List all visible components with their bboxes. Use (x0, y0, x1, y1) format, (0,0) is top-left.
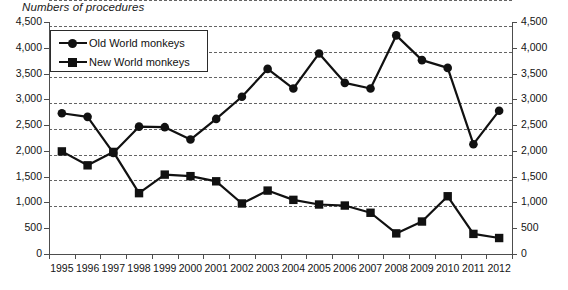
y-axis-label-right: 1,000 (521, 195, 565, 207)
data-point-marker-square (186, 172, 194, 180)
gridline (49, 103, 512, 104)
legend-item-old-world-monkeys[interactable]: Old World monkeys (59, 34, 185, 51)
y-axis-label-left: 2,500 (0, 118, 42, 130)
gridline (49, 180, 512, 181)
data-point-marker-square (392, 229, 400, 237)
data-point-marker-square (83, 161, 91, 169)
y-axis-label-left: 2,000 (0, 144, 42, 156)
data-point-marker-circle (418, 56, 427, 65)
x-axis-line (49, 254, 513, 255)
y-axis-label-left: 1,500 (0, 170, 42, 182)
data-point-marker-square (315, 200, 323, 208)
y-axis-label-right: 4,000 (521, 41, 565, 53)
gridline (49, 0, 512, 1)
data-point-marker-circle (341, 79, 350, 88)
data-point-marker-circle (83, 113, 92, 122)
y-axis-label-left: 0 (0, 247, 42, 259)
y-axis-label-left: 4,500 (0, 15, 42, 27)
circle-marker-icon (59, 37, 87, 49)
y-axis-right-line (512, 22, 513, 255)
gridline (49, 155, 512, 156)
legend-label-old-world-monkeys: Old World monkeys (89, 37, 185, 49)
y-axis-label-left: 500 (0, 221, 42, 233)
gridline (49, 129, 512, 130)
data-point-marker-square (289, 196, 297, 204)
y-axis-label-left: 3,500 (0, 67, 42, 79)
data-point-marker-circle (392, 31, 401, 40)
y-axis-label-left: 3,000 (0, 92, 42, 104)
y-axis-label-right: 2,000 (521, 144, 565, 156)
gridline (49, 77, 512, 78)
legend-label-new-world-monkeys: New World monkeys (89, 56, 190, 68)
y-axis-label-right: 3,500 (521, 67, 565, 79)
data-point-marker-square (263, 186, 271, 194)
x-axis-label: 2012 (483, 262, 515, 274)
data-point-marker-circle (315, 49, 324, 58)
data-point-marker-circle (58, 109, 67, 118)
data-point-marker-circle (469, 140, 478, 149)
y-axis-label-right: 2,500 (521, 118, 565, 130)
data-point-marker-circle (186, 135, 195, 144)
y-axis-label-right: 500 (521, 221, 565, 233)
data-point-marker-square (469, 230, 477, 238)
data-point-marker-square (443, 192, 451, 200)
series-line-new-world-monkeys (62, 151, 499, 238)
gridline (49, 206, 512, 207)
data-point-marker-circle (366, 84, 375, 93)
data-point-marker-square (135, 189, 143, 197)
y-axis-label-right: 3,000 (521, 92, 565, 104)
square-marker-icon (59, 56, 87, 68)
data-point-marker-square (366, 209, 374, 217)
data-point-marker-square (161, 170, 169, 178)
data-point-marker-circle (495, 106, 504, 115)
data-point-marker-circle (289, 84, 298, 93)
legend-item-new-world-monkeys[interactable]: New World monkeys (59, 53, 190, 70)
chart-figure: Numbers of procedures 05001,0001,5002,00… (0, 0, 568, 290)
data-point-marker-circle (109, 149, 118, 158)
y-axis-label-right: 1,500 (521, 170, 565, 182)
chart-title: Numbers of procedures (22, 1, 144, 13)
gridline (49, 26, 512, 27)
data-point-marker-circle (238, 92, 247, 101)
data-point-marker-circle (263, 65, 272, 74)
y-axis-label-left: 4,000 (0, 41, 42, 53)
data-point-marker-circle (160, 123, 169, 132)
data-point-marker-square (418, 217, 426, 225)
data-point-marker-circle (212, 115, 221, 124)
y-axis-label-right: 0 (521, 247, 565, 259)
y-axis-label-right: 4,500 (521, 15, 565, 27)
y-axis-label-left: 1,000 (0, 195, 42, 207)
data-point-marker-square (495, 234, 503, 242)
chart-legend: Old World monkeys New World monkeys (50, 30, 208, 72)
data-point-marker-circle (443, 64, 452, 73)
